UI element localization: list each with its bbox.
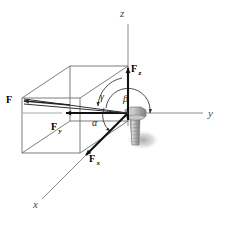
x-axis-label: x xyxy=(32,198,38,210)
bolt-collar xyxy=(127,115,145,120)
vector-fx-label: F xyxy=(89,153,95,164)
vector-f-label: F xyxy=(6,94,12,105)
diagram-canvas: z y x F F z F y F x α β γ xyxy=(0,0,225,225)
vector-f-resultant xyxy=(24,99,128,113)
z-axis-label: z xyxy=(119,7,125,19)
box-edge-top-right xyxy=(80,66,128,98)
angle-arc-group xyxy=(98,78,150,131)
reference-box xyxy=(22,66,128,153)
vector-f-upper-edge xyxy=(24,99,128,113)
force-vector-diagram: z y x F F z F y F x α β γ xyxy=(0,0,225,225)
angle-alpha-label: α xyxy=(92,117,98,128)
angle-gamma-label: γ xyxy=(100,91,105,102)
vector-f-lower-edge xyxy=(24,104,128,113)
angle-beta-label: β xyxy=(122,93,128,104)
vector-fz-label: F xyxy=(131,63,137,74)
vector-fx-subscript: x xyxy=(96,159,101,167)
box-edge-bot-left xyxy=(22,121,70,153)
axis-group xyxy=(42,24,203,199)
box-edge-top-left xyxy=(22,66,70,98)
vector-fy-label: F xyxy=(51,121,57,132)
y-axis-label: y xyxy=(207,107,213,119)
vector-fz-subscript: z xyxy=(138,69,142,77)
vector-fy-subscript: y xyxy=(58,127,63,135)
